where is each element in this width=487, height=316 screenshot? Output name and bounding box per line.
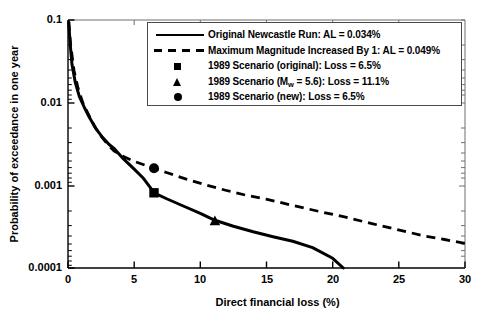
y-axis-title-wrapper: Probability of exceedance in one year <box>0 0 22 290</box>
exceedance-probability-chart: 0.1 0.01 0.001 0.0001 0 5 10 15 20 25 30… <box>0 0 487 316</box>
circle-marker-key <box>152 89 208 104</box>
xtick-label-3: 15 <box>256 273 278 285</box>
xtick-label-2: 10 <box>189 273 211 285</box>
legend-label-1989-original: 1989 Scenario (original): Loss = 6.5% <box>208 60 381 71</box>
x-axis-title: Direct financial loss (%) <box>0 296 487 308</box>
xtick-label-6: 30 <box>454 273 476 285</box>
xtick-label-1: 5 <box>124 273 144 285</box>
triangle-marker-key <box>152 74 208 89</box>
legend-label-1989-mw56-sub: w <box>288 80 294 89</box>
ytick-label-2: 0.001 <box>16 179 62 191</box>
y-axis-title: Probability of exceedance in one year <box>8 14 20 274</box>
ytick-label-1: 0.01 <box>16 96 62 108</box>
solid-line-key <box>152 27 208 42</box>
xtick-label-0: 0 <box>58 273 78 285</box>
legend-label-1989-mw56-pre: 1989 Scenario (M <box>208 76 288 87</box>
legend-item-1989-mw56: 1989 Scenario (Mw = 5.6): Loss = 11.1% <box>148 74 461 90</box>
dashed-line-key <box>152 43 208 58</box>
legend-label-1989-mw56: 1989 Scenario (Mw = 5.6): Loss = 11.1% <box>208 76 389 87</box>
square-marker-key <box>152 58 208 73</box>
legend-item-maximum-magnitude: Maximum Magnitude Increased By 1: AL = 0… <box>148 43 461 59</box>
legend-item-original-newcastle: Original Newcastle Run: AL = 0.034% <box>148 27 461 43</box>
legend-label-1989-mw56-post: = 5.6): Loss = 11.1% <box>294 76 389 87</box>
x-axis-title-text: Direct financial loss (%) <box>215 296 339 308</box>
marker-1989-scenario-new <box>149 163 159 173</box>
legend-item-1989-new: 1989 Scenario (new): Loss = 6.5% <box>148 89 461 105</box>
x-major-ticks <box>68 262 465 269</box>
marker-1989-scenario-original <box>149 188 158 197</box>
chart-legend: Original Newcastle Run: AL = 0.034% Maxi… <box>147 22 462 106</box>
legend-label-1989-new: 1989 Scenario (new): Loss = 6.5% <box>208 91 365 102</box>
legend-label-maximum-magnitude: Maximum Magnitude Increased By 1: AL = 0… <box>208 45 440 56</box>
xtick-label-4: 20 <box>322 273 344 285</box>
legend-item-1989-original: 1989 Scenario (original): Loss = 6.5% <box>148 58 461 74</box>
ytick-label-0: 0.1 <box>16 13 62 25</box>
legend-label-original-newcastle: Original Newcastle Run: AL = 0.034% <box>208 29 380 40</box>
xtick-label-5: 25 <box>388 273 410 285</box>
